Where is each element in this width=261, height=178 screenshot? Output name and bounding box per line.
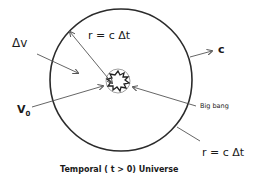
radius-label-top: r = c Δt [88,29,131,42]
radius-pointer-bottom [177,127,200,141]
big-bang-label: Big bang [200,102,229,110]
delta-v-label: Δv [12,36,27,50]
speed-of-light-arrow [190,51,212,57]
delta-v-arrow [37,54,78,73]
initial-velocity-label: V0 [17,103,31,118]
big-bang-burst-icon [106,69,130,93]
initial-velocity-subscript: 0 [26,110,31,118]
speed-of-light-label: c [218,43,225,56]
initial-velocity-arrow [32,86,103,107]
radius-label-bottom: r = c Δt [202,146,245,159]
diagram-title: Temporal ( t > 0) Universe [60,165,179,174]
universe-diagram: Δv r = c Δt c V0 Big bang r = c Δt Tempo… [0,0,261,178]
big-bang-pointer [133,87,196,106]
